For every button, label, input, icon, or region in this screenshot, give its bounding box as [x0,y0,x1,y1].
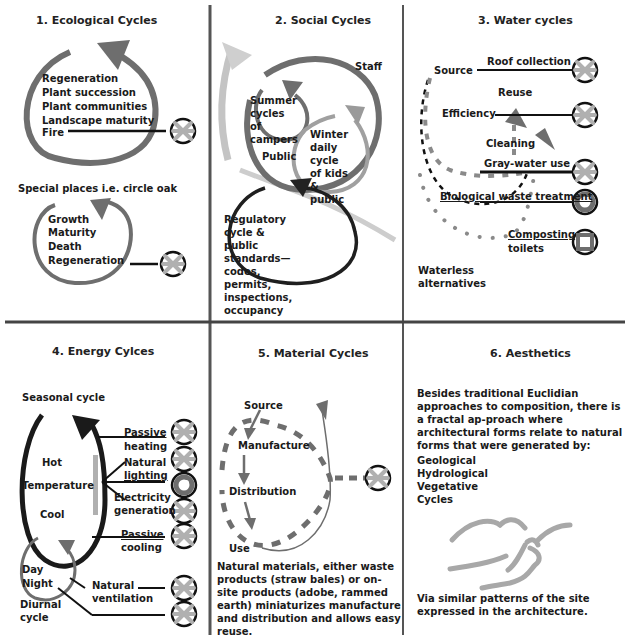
material-description: Natural materials, either waste products… [217,560,402,638]
panel-title: 6. Aesthetics [490,347,571,360]
label-passive-heating-2: heating [124,440,167,453]
label-plant-communities: Plant communities [42,100,147,113]
passive-cooling-symbol-icon [172,524,196,548]
label-night: Night [22,577,53,590]
label-staff: Staff [355,60,382,73]
panel-title: 2. Social Cycles [275,14,371,27]
graywater-symbol-icon [573,160,597,184]
oak-symbol-icon [161,252,185,276]
label-hot: Hot [42,456,62,469]
label-maturity: Maturity [48,226,96,239]
label-passive-cooling-1: Passive [121,528,163,541]
label-manufacture: Manufacture [238,439,310,452]
label-fire: Fire [42,126,64,139]
label-summer-campers: Summer cycles of campers [250,94,298,146]
aesthetics-description: Besides traditional Euclidian approaches… [417,387,629,452]
label-reuse: Reuse [498,86,532,99]
panel-title: 5. Material Cycles [258,347,369,360]
aesthetics-footer: Via similar patterns of the site express… [417,592,617,618]
label-roof-collection: Roof collection [487,55,571,68]
label-cleaning: Cleaning [486,137,535,150]
label-waterless-alternatives: Waterless alternatives [418,264,486,290]
label-natural-lighting-2: lighting [124,469,168,482]
label-special-places: Special places i.e. circle oak [18,182,177,195]
label-natural-lighting-1: Natural [124,456,166,469]
label-biological-waste: Biological waste treatment [440,190,593,203]
label-electricity-1: Electricity [114,491,171,504]
label-regulatory-cycle: Regulatory cycle & public standards—code… [224,213,292,317]
passive-heating-symbol-icon [172,420,196,444]
panel-title: 1. Ecological Cycles [36,14,157,27]
panel-title: 3. Water cycles [478,14,573,27]
label-plant-succession: Plant succession [42,86,136,99]
label-diurnal-cycle: Diurnal cycle [20,598,61,624]
material-dashed-cycle [222,400,365,551]
label-distribution: Distribution [229,485,296,498]
label-electricity-2: generation [114,504,176,517]
label-day: Day [22,563,43,576]
diurnal-ventilation-symbol-icon [172,602,196,626]
panel-title: 4. Energy Cylces [52,345,154,358]
label-regeneration: Regeneration [42,72,118,85]
efficiency-symbol-icon [573,103,597,127]
roof-symbol-icon [573,58,597,82]
label-source: Source [244,399,283,412]
material-symbol-icon [366,466,390,490]
electricity-symbol-icon [172,473,196,497]
label-efficiency: Efficiency [442,107,496,120]
label-temperature: Temperature [22,479,94,492]
label-graywater-use: Gray-water use [484,157,570,170]
natural-ventilation-symbol-icon [172,576,196,600]
label-growth: Growth [48,213,89,226]
natural-lighting-symbol-icon [172,447,196,471]
label-public: Public [262,150,296,163]
fire-symbol-icon [171,119,195,143]
label-source: Source [434,64,473,77]
label-winter-daily: Winter daily cycle of kids & public [310,128,348,206]
label-natural-ventilation: Natural ventilation [92,579,153,605]
label-passive-heating-1: Passive [124,426,166,439]
label-composting: Composting [508,228,575,241]
label-use: Use [229,542,250,555]
label-seasonal-cycle: Seasonal cycle [22,391,105,404]
label-toilets: toilets [508,242,544,255]
label-cool: Cool [40,508,65,521]
fractal-sketch [450,520,570,588]
label-passive-cooling-2: cooling [121,541,162,554]
label-regeneration-2: Regeneration [48,254,124,267]
aesthetics-cycle-list: Geological Hydrological Vegetative Cycle… [417,454,488,506]
composting-symbol-icon [573,230,597,254]
label-death: Death [48,240,82,253]
